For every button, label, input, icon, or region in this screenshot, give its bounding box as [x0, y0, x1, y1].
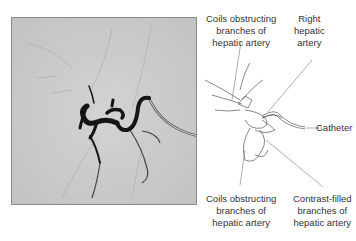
label-right-hepatic-artery: Right hepatic artery	[294, 13, 325, 49]
label-coils-bottom: Coils obstructing branches of hepatic ar…	[206, 193, 276, 229]
angiogram-vessels	[12, 18, 197, 205]
label-catheter: Catheter	[316, 122, 352, 134]
angiogram-image	[11, 17, 197, 205]
label-contrast-filled: Contrast-filled branches of hepatic arte…	[293, 193, 352, 229]
label-coils-top: Coils obstructing branches of hepatic ar…	[206, 13, 276, 49]
